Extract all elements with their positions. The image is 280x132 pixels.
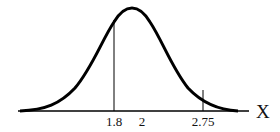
normal-curve-diagram: 1.8 2 2.75 X [0,0,280,132]
axis-label-x: X [256,101,270,122]
bell-curve [20,8,238,111]
tick-label-2: 2 [139,114,146,129]
tick-label-2-75: 2.75 [192,114,215,129]
tick-label-1-8: 1.8 [106,114,122,129]
